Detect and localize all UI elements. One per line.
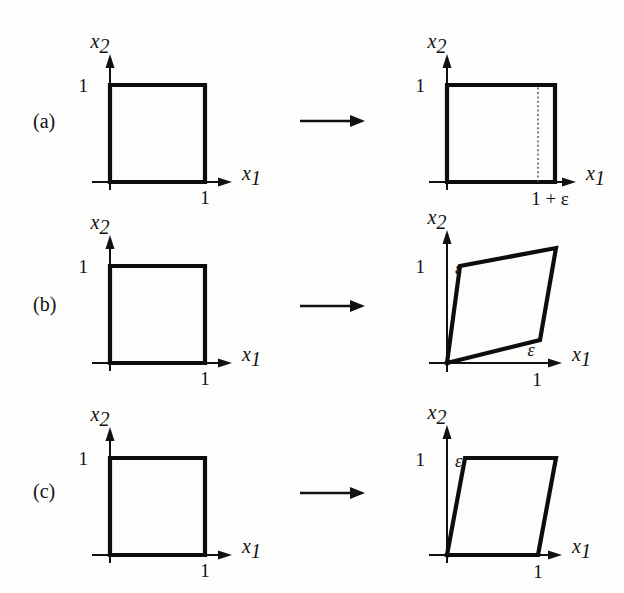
simple-shear-parallelogram-outline [447, 458, 556, 555]
x-axis-label: x1 [571, 535, 591, 562]
x-axis-label: x1 [241, 535, 261, 562]
y-tick-label: 1 [416, 256, 426, 277]
x-axis-arrowhead [218, 359, 232, 368]
panel-a-before: 1 1 x2 x1 [0, 0, 300, 200]
unit-square-outline [110, 266, 205, 363]
x-axis-arrowhead [548, 551, 562, 560]
stretched-rectangle-outline [447, 85, 555, 182]
y-axis-label: x2 [90, 211, 110, 238]
x-axis-label: x1 [571, 343, 591, 370]
unit-square-outline [110, 85, 205, 182]
y-axis-label: x2 [90, 30, 110, 57]
y-tick-label: 1 [79, 75, 89, 96]
y-axis-label: x2 [427, 401, 447, 428]
x-axis-label: x1 [585, 162, 605, 189]
y-axis-label: x2 [90, 403, 110, 430]
x-tick-label: 1 [533, 561, 543, 582]
x-axis-arrowhead [562, 178, 576, 187]
y-tick-label: 1 [416, 75, 426, 96]
panel-b-after: 1 ε ε 1 x2 x1 [324, 190, 624, 400]
unit-square-outline [110, 458, 205, 555]
deformation-figure: (a) 1 1 x2 x1 [0, 0, 624, 593]
y-axis-label: x2 [427, 30, 447, 57]
x-axis-arrowhead [218, 178, 232, 187]
pure-shear-parallelogram-outline [447, 248, 556, 363]
x-axis-label: x1 [241, 162, 261, 189]
y-tick-label: 1 [79, 256, 89, 277]
epsilon-label-y: ε [455, 258, 463, 278]
x-tick-label: 1 [200, 560, 210, 581]
x-axis-arrowhead [218, 551, 232, 560]
panel-c-after: 1 ε 1 x2 x1 [324, 385, 624, 590]
x-axis-arrowhead [548, 359, 562, 368]
y-tick-label: 1 [416, 449, 426, 470]
panel-c-before: 1 1 x2 x1 [0, 385, 300, 585]
epsilon-label-x: ε [527, 340, 535, 360]
panel-b-before: 1 1 x2 x1 [0, 190, 300, 390]
epsilon-label-y: ε [455, 451, 463, 471]
y-axis-label: x2 [427, 206, 447, 233]
panel-a-after: 1 1 + ε x2 x1 [324, 0, 624, 210]
x-axis-label: x1 [241, 343, 261, 370]
y-tick-label: 1 [79, 448, 89, 469]
